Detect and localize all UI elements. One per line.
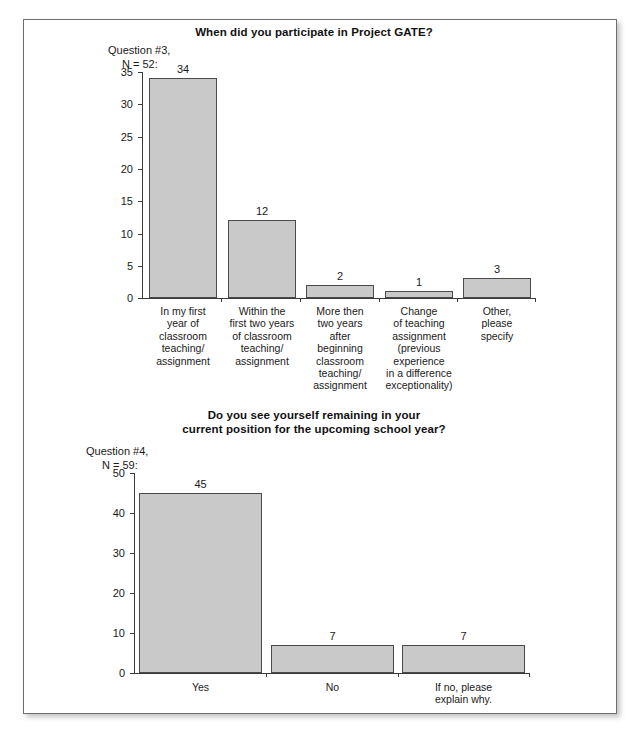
chart-1-ytick-mark-0 [138,298,142,299]
cat2-line5: assignment [218,355,306,367]
chart-1-ytick-mark-20 [138,169,142,170]
chart-2-ytick-label-50: 50 [91,468,125,479]
chart-1-bar-value-1: 34 [149,63,217,75]
chart-2-ytick-label-10: 10 [91,628,125,639]
chart-1-category-label-5: Other, please specify [453,305,541,342]
cat5-line3: specify [453,330,541,342]
chart-1-category-label-1: In my first year of classroom teaching/ … [139,305,227,367]
c2-cat1-line1: Yes [139,681,262,693]
chart-2-annotation-line-1: Question #4, [86,444,148,458]
c2-cat2-line1: No [271,681,394,693]
chart-2-y-axis [134,473,135,674]
chart-1-bar-value-2: 12 [228,205,296,217]
chart-1-ytick-label-20: 20 [99,164,133,175]
chart-2-ytick-label-30: 30 [91,548,125,559]
chart-1-ytick-mark-35 [138,72,142,73]
chart-2-x-axis [134,673,530,674]
chart-2-xtick-mark-2 [398,673,399,677]
chart-1-ytick-label-35: 35 [99,67,133,78]
cat4-line7: exceptionality) [371,379,467,391]
chart-1-ytick-label-15: 15 [99,196,133,207]
chart-2-category-label-3: If no, please explain why. [402,681,525,706]
chart-2-bar-3 [402,645,525,673]
chart-2-bar-value-3: 7 [402,630,525,642]
chart-1-ytick-label-30: 30 [99,99,133,110]
cat1-line1: In my first [139,305,227,317]
chart-2-bar-2 [271,645,394,673]
chart-1-xtick-mark-5 [535,298,536,302]
cat2-line2: first two years [218,317,306,329]
chart-1-category-label-2: Within the first two years of classroom … [218,305,306,367]
chart-2-title-line-2: current position for the upcoming school… [64,422,564,436]
cat1-line3: classroom [139,330,227,342]
chart-2-bar-value-2: 7 [271,630,394,642]
chart-1-ytick-mark-30 [138,104,142,105]
chart-2-category-label-2: No [271,681,394,693]
chart-2-bar-value-1: 45 [139,478,262,490]
chart-2-ytick-mark-10 [130,633,134,634]
chart-1-ytick-label-0: 0 [99,293,133,304]
chart-2-ytick-mark-30 [130,553,134,554]
chart-1-ytick-label-10: 10 [99,229,133,240]
chart-2-ytick-mark-0 [130,673,134,674]
c2-cat3-line1: If no, please [402,681,525,693]
chart-1-xtick-mark-4 [457,298,458,302]
cat1-line4: teaching/ [139,342,227,354]
cat5-line1: Other, [453,305,541,317]
chart-1-ytick-label-25: 25 [99,132,133,143]
chart-1-bar-1 [149,78,217,298]
chart-2-bar-1 [139,493,262,673]
chart-1-ytick-mark-5 [138,266,142,267]
chart-1-bar-value-4: 1 [385,276,453,288]
chart-1-xtick-mark-2 [300,298,301,302]
chart-2-title-line-1: Do you see yourself remaining in your [64,408,564,422]
c2-cat3-line2: explain why. [402,693,525,705]
chart-1-ytick-mark-25 [138,137,142,138]
chart-1-xtick-mark-1 [221,298,222,302]
chart-2-xtick-mark-3 [529,673,530,677]
cat4-line4: (previous [371,342,467,354]
cat1-line5: assignment [139,355,227,367]
cat4-line6: in a difference [371,367,467,379]
chart-1-bar-4 [385,291,453,298]
chart-2-ytick-label-20: 20 [91,588,125,599]
chart-1-x-axis [142,298,536,299]
chart-2-ytick-label-0: 0 [91,668,125,679]
chart-2-ytick-mark-50 [130,473,134,474]
cat1-line2: year of [139,317,227,329]
chart-2-category-label-1: Yes [139,681,262,693]
chart-1-plot-area: 35 30 25 20 15 10 5 0 34 12 2 1 3 [142,72,536,298]
chart-1-annotation-line-1: Question #3, [108,43,170,57]
chart-2-ytick-mark-20 [130,593,134,594]
chart-2-plot-area: 50 40 30 20 10 0 45 7 7 Yes No If no, pl [134,473,530,673]
chart-1-xtick-mark-3 [379,298,380,302]
chart-1-title: When did you participate in Project GATE… [64,25,564,39]
cat2-line3: of classroom [218,330,306,342]
page-sheet: When did you participate in Project GATE… [23,19,617,714]
chart-1-bar-2 [228,220,296,298]
chart-1-bar-value-3: 2 [306,270,374,282]
chart-1-y-axis [142,72,143,299]
chart-2-xtick-mark-1 [266,673,267,677]
chart-1-ytick-mark-15 [138,201,142,202]
chart-1-bar-3 [306,285,374,298]
cat4-line5: experience [371,355,467,367]
chart-1-ytick-mark-10 [138,234,142,235]
cat2-line4: teaching/ [218,342,306,354]
chart-2-ytick-label-40: 40 [91,508,125,519]
chart-2-ytick-mark-40 [130,513,134,514]
chart-1-bar-value-5: 3 [463,263,531,275]
chart-1-ytick-label-5: 5 [99,261,133,272]
cat2-line1: Within the [218,305,306,317]
chart-1-bar-5 [463,278,531,298]
cat5-line2: please [453,317,541,329]
